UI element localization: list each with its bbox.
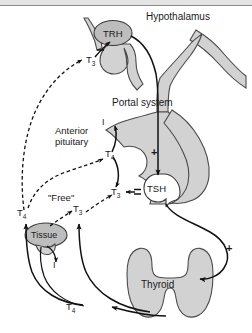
- top-band: [0, 0, 252, 5]
- free-label: "Free": [48, 192, 74, 203]
- t4-thyroid-label: T4: [66, 301, 76, 314]
- t3-free-label: T3: [73, 203, 83, 216]
- tsh-label: TSH: [147, 183, 166, 194]
- edge-t4-to-t3-pituitary: [113, 157, 118, 187]
- edge-t3-free-to-pituitary: [86, 195, 112, 212]
- iodine-tissue-label: I: [53, 260, 56, 270]
- plus-sign-portal: +: [151, 146, 157, 158]
- anterior-pituitary-label-line2: pituitary: [55, 136, 89, 147]
- t3-pituitary-label: T3: [111, 186, 121, 199]
- edge-t4-to-tissue: [40, 247, 84, 306]
- tissue-label: Tissue: [31, 230, 57, 240]
- hypothalamus-label: Hypothalamus: [146, 11, 210, 22]
- portal-system-label: Portal system: [112, 97, 173, 108]
- t4-free-label: T4: [17, 207, 27, 220]
- t3-hypothalamus-label: T3: [86, 54, 96, 67]
- anterior-pituitary-label-line1: Anterior: [55, 125, 88, 136]
- hpt-axis-figure: Hypothalamus TRH Portal system Anterior …: [0, 0, 252, 333]
- hpt-axis-svg: Hypothalamus TRH Portal system Anterior …: [0, 0, 252, 333]
- hypothalamus-left-lobe: [100, 44, 143, 90]
- plus-sign-thyroid: +: [226, 242, 232, 254]
- trh-label: TRH: [103, 28, 123, 39]
- thyroid-label: Thyroid: [141, 279, 174, 290]
- iodine-pituitary-label: I: [102, 117, 105, 127]
